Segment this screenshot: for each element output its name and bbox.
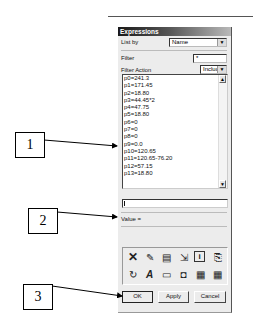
callout-arrows bbox=[0, 0, 257, 327]
